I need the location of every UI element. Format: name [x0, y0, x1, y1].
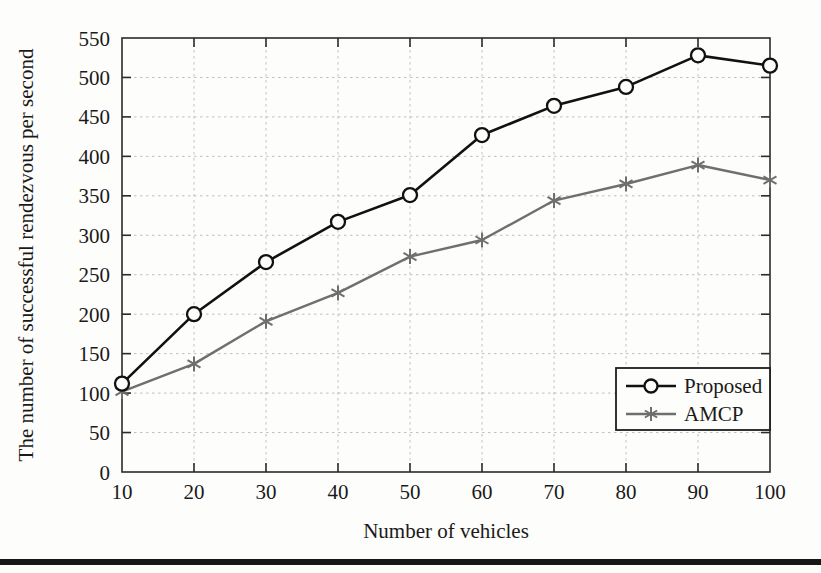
x-axis-tick-label: 80 [616, 480, 637, 504]
y-axis-title: The number of successful rendezvous per … [14, 48, 38, 461]
data-point-marker-proposed [691, 48, 705, 62]
legend-marker-circle-icon [645, 380, 658, 393]
data-point-marker-proposed [259, 255, 273, 269]
data-point-marker-proposed [547, 99, 561, 113]
data-point-marker-proposed [403, 188, 417, 202]
y-axis-tick-label: 200 [79, 303, 111, 327]
x-axis-tick-label: 90 [688, 480, 709, 504]
x-axis-tick-label: 100 [754, 480, 786, 504]
x-axis-tick-label: 40 [328, 480, 349, 504]
data-point-marker-amcp [188, 356, 201, 371]
y-axis-tick-label: 100 [79, 382, 111, 406]
data-point-marker-amcp [260, 314, 273, 329]
y-axis-tick-label: 400 [79, 145, 111, 169]
y-axis-tick-label: 450 [79, 105, 111, 129]
y-axis-tick-label: 350 [79, 184, 111, 208]
legend-label-amcp: AMCP [684, 402, 744, 426]
data-point-marker-proposed [763, 59, 777, 73]
data-point-marker-amcp [332, 285, 345, 300]
x-axis-tick-label: 30 [256, 480, 277, 504]
y-axis-tick-label: 250 [79, 263, 111, 287]
data-point-marker-proposed [475, 128, 489, 142]
y-axis-tick-label: 500 [79, 66, 111, 90]
x-axis-tick-label: 20 [184, 480, 205, 504]
x-axis-title: Number of vehicles [363, 519, 529, 543]
series-line-amcp [122, 165, 770, 391]
x-axis-tick-label: 10 [112, 480, 133, 504]
page-bottom-rule [0, 559, 821, 565]
data-point-marker-proposed [331, 215, 345, 229]
x-axis-tick-label: 60 [472, 480, 493, 504]
y-axis-tick-label: 0 [100, 461, 111, 485]
data-point-marker-proposed [619, 80, 633, 94]
line-chart-figure: 050100150200250300350400450500550 102030… [0, 0, 821, 573]
data-point-marker-proposed [115, 377, 129, 391]
y-axis-tick-label: 50 [89, 421, 110, 445]
y-axis-tick-labels: 050100150200250300350400450500550 [79, 27, 111, 485]
series-line-proposed [122, 55, 770, 383]
data-point-marker-proposed [187, 307, 201, 321]
chart-legend[interactable]: Proposed AMCP [616, 368, 770, 430]
x-axis-tick-label: 70 [544, 480, 565, 504]
y-axis-tick-label: 550 [79, 27, 111, 51]
series-markers-amcp [116, 158, 777, 399]
x-axis-tick-label: 50 [400, 480, 421, 504]
y-axis-tick-label: 300 [79, 224, 111, 248]
series-markers-proposed [115, 48, 777, 390]
y-axis-tick-label: 150 [79, 342, 111, 366]
x-axis-tick-labels: 102030405060708090100 [112, 480, 786, 504]
chart-svg: 050100150200250300350400450500550 102030… [0, 0, 821, 573]
legend-label-proposed: Proposed [684, 374, 763, 398]
